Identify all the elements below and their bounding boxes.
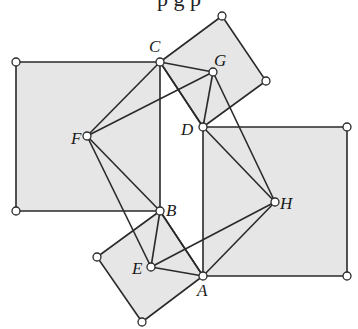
vertex-corner-2 <box>218 12 226 20</box>
vertex-A <box>199 272 207 280</box>
label-G: G <box>214 51 226 70</box>
label-E: E <box>131 259 143 278</box>
vertex-corner-7 <box>138 318 146 326</box>
label-H: H <box>279 194 294 213</box>
vertex-corner-0 <box>12 58 20 66</box>
vertex-B <box>156 207 164 215</box>
vertex-F <box>83 132 91 140</box>
vertex-H <box>271 198 279 206</box>
vertex-corner-1 <box>12 207 20 215</box>
vertex-corner-3 <box>262 77 270 85</box>
label-F: F <box>70 129 82 148</box>
label-A: A <box>196 281 208 300</box>
label-B: B <box>166 201 177 220</box>
label-C: C <box>149 37 161 56</box>
vertex-E <box>147 263 155 271</box>
vertex-corner-4 <box>343 123 351 131</box>
vertex-corner-5 <box>343 272 351 280</box>
squares-group <box>16 16 347 322</box>
pythagorean-squares-diagram: CGDFBHEA <box>0 0 358 329</box>
vertex-corner-6 <box>93 253 101 261</box>
vertex-D <box>199 123 207 131</box>
vertex-C <box>156 58 164 66</box>
label-D: D <box>180 120 194 139</box>
